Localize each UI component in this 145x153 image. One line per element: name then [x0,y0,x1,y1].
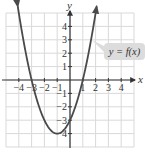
x-tick-label: −4 [13,82,24,93]
y-tick-label: 2 [62,48,67,59]
y-tick-label: −1 [56,88,67,99]
y-tick-label: −2 [56,101,67,112]
x-tick-label: 4 [119,82,124,93]
x-tick-label: 2 [93,82,98,93]
y-tick-label: −3 [56,115,67,126]
x-tick-label: −2 [39,82,50,93]
y-tick-label: 4 [62,21,67,32]
function-graph: −4−3−2−112344321−1−2−3−4 y = f(x) x y [0,0,145,153]
plot-area: −4−3−2−112344321−1−2−3−4 y = f(x) x y [0,0,145,153]
x-axis-label: x [137,73,143,85]
x-tick-label: 3 [106,82,111,93]
y-tick-label: 1 [62,61,67,72]
callout: y = f(x) [92,40,145,60]
callout-pointer [92,40,106,54]
y-tick-label: 3 [62,34,67,45]
y-axis-label: y [66,0,72,11]
callout-label: y = f(x) [108,46,141,58]
